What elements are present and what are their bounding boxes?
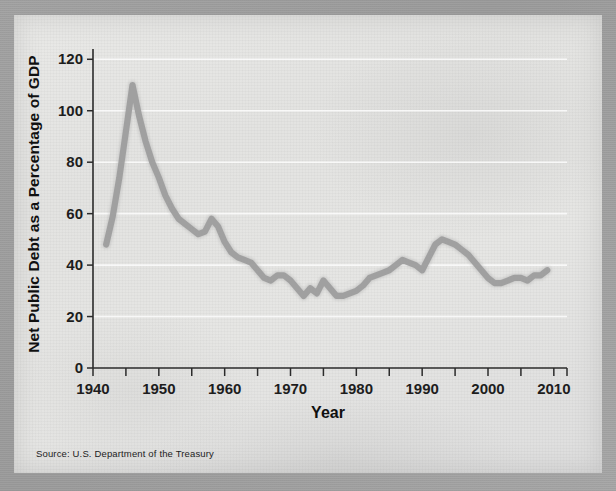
y-tick-label: 40 [66,256,83,273]
x-axis-ticks-group: 19401950196019701980199020002010 [76,368,570,397]
y-tick-label: 0 [75,359,83,376]
y-tick-label: 60 [66,205,83,222]
scan-frame: 020406080100120 194019501960197019801990… [0,0,616,491]
source-note: Source: U.S. Department of the Treasury [36,448,214,459]
y-tick-label: 120 [58,50,83,67]
x-tick-label: 1940 [76,380,109,397]
x-tick-label: 2000 [471,380,504,397]
x-axis-title: Year [93,404,563,422]
x-tick-label: 1950 [142,380,175,397]
x-tick-label: 1960 [208,380,241,397]
x-tick-label: 1970 [274,380,307,397]
y-axis-title: Net Public Debt as a Percentage of GDP [22,28,46,380]
y-tick-label: 80 [66,153,83,170]
y-tick-label: 100 [58,102,83,119]
y-tick-label: 20 [66,308,83,325]
x-tick-label: 1980 [340,380,373,397]
y-axis-ticks-group: 020406080100120 [58,50,93,376]
x-tick-label: 1990 [405,380,438,397]
y-axis-title-text: Net Public Debt as a Percentage of GDP [25,55,43,353]
x-tick-label: 2010 [537,380,570,397]
